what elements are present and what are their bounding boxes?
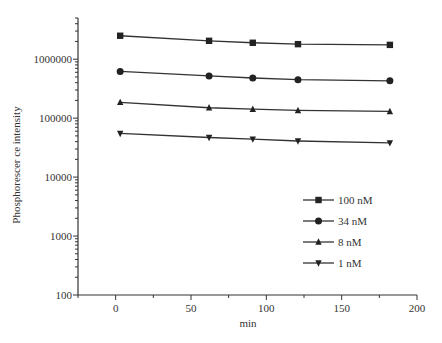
x-tick-label: 50: [186, 302, 198, 314]
series-34-nm: [117, 68, 394, 84]
circle-marker-icon: [294, 76, 301, 83]
legend-label: 34 nM: [338, 215, 367, 227]
y-tick-label: 100: [56, 289, 73, 301]
legend-item: 34 nM: [303, 215, 367, 227]
square-marker-icon: [206, 38, 212, 44]
axes: 1001000100001000001000000050100150200: [34, 18, 426, 314]
line-chart: 1001000100001000001000000050100150200 10…: [0, 0, 442, 343]
legend-item: 1 nM: [303, 257, 362, 269]
circle-marker-icon: [315, 218, 322, 225]
y-tick-label: 1000: [50, 230, 73, 242]
square-marker-icon: [295, 41, 301, 47]
x-tick-label: 200: [409, 302, 426, 314]
circle-marker-icon: [249, 74, 256, 81]
circle-marker-icon: [386, 77, 393, 84]
legend-label: 1 nM: [338, 257, 362, 269]
series-1-nm: [117, 131, 393, 147]
circle-marker-icon: [206, 72, 213, 79]
square-marker-icon: [117, 33, 123, 39]
series-lines: [117, 33, 394, 147]
x-tick-label: 100: [258, 302, 275, 314]
legend-label: 8 nM: [338, 236, 362, 248]
y-axis-label: Phosphorescer ce intensity: [10, 106, 22, 224]
square-marker-icon: [315, 197, 321, 203]
series-8-nm: [117, 99, 393, 114]
y-tick-label: 10000: [45, 171, 73, 183]
legend: 100 nM34 nM8 nM1 nM: [303, 194, 373, 269]
legend-item: 100 nM: [303, 194, 373, 206]
x-tick-label: 0: [113, 302, 119, 314]
square-marker-icon: [250, 40, 256, 46]
legend-item: 8 nM: [303, 236, 362, 248]
x-tick-label: 150: [333, 302, 350, 314]
circle-marker-icon: [117, 68, 124, 75]
y-tick-label: 1000000: [34, 53, 73, 65]
square-marker-icon: [387, 42, 393, 48]
legend-label: 100 nM: [338, 194, 373, 206]
x-axis-label: min: [239, 317, 257, 329]
series-100-nm: [117, 33, 393, 49]
y-tick-label: 100000: [39, 112, 73, 124]
